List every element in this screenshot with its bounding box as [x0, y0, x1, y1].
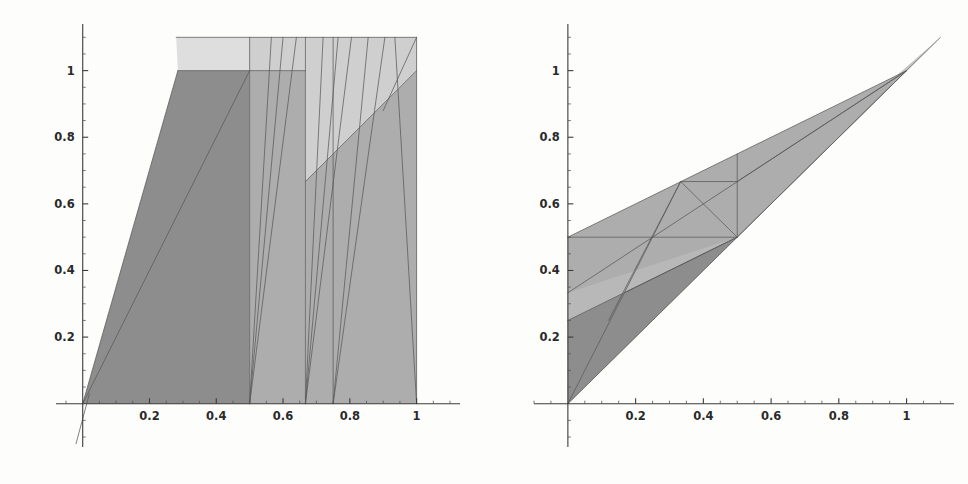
- region-top-sliver-left: [250, 37, 306, 70]
- x-tick-label: 0.2: [139, 409, 159, 423]
- y-tick-label: 0.4: [539, 263, 559, 277]
- x-tick-label: 0.8: [829, 409, 849, 423]
- y-tick-label: 0.8: [539, 130, 559, 144]
- x-tick-label: 0.8: [340, 409, 360, 423]
- figure-canvas: 0.20.40.60.810.20.40.60.81 0.20.40.60.81…: [0, 0, 968, 484]
- x-tick-label: 1: [413, 409, 421, 423]
- x-tick-label: 0.2: [625, 409, 645, 423]
- y-tick-label: 0.8: [54, 130, 74, 144]
- x-tick-label: 0.6: [761, 409, 781, 423]
- x-tick-label: 0.6: [273, 409, 293, 423]
- region-apex-sliver: [896, 37, 940, 75]
- x-tick-label: 1: [903, 409, 911, 423]
- right-plot-panel: 0.20.40.60.810.20.40.60.81: [484, 0, 968, 484]
- y-tick-label: 0.6: [539, 197, 559, 211]
- y-tick-label: 0.2: [54, 330, 74, 344]
- y-tick-label: 1: [67, 64, 75, 78]
- region-mid-column-mid: [250, 71, 306, 404]
- y-tick-label: 1: [552, 64, 560, 78]
- x-tick-label: 0.4: [693, 409, 713, 423]
- y-tick-label: 0.4: [54, 263, 74, 277]
- right-plot-svg: 0.20.40.60.810.20.40.60.81: [484, 0, 968, 484]
- left-plot-panel: 0.20.40.60.810.20.40.60.81: [0, 0, 484, 484]
- left-plot-svg: 0.20.40.60.810.20.40.60.81: [0, 0, 484, 484]
- y-tick-label: 0.2: [539, 330, 559, 344]
- segment-ray-to-apex-a: [737, 71, 906, 182]
- y-tick-label: 0.6: [54, 197, 74, 211]
- x-tick-label: 0.4: [206, 409, 226, 423]
